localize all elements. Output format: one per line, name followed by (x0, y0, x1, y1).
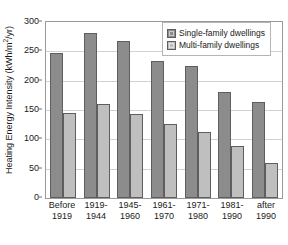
legend-item-multi-family: Multi-family dwellings (167, 39, 265, 51)
y-tick-mark (39, 21, 42, 22)
y-tick-label: 300 (24, 16, 39, 26)
x-axis-labels: Before19191919-19441945-19601961-1970197… (45, 200, 283, 222)
bar (97, 104, 110, 198)
y-axis-title: Heating Energy Intensity (kWh/m2/yr) (0, 0, 18, 200)
bar (164, 124, 177, 198)
legend-item-single-family: Single-family dwellings (167, 27, 265, 39)
bar (50, 53, 63, 198)
x-tick-label: 1919-1944 (79, 200, 113, 222)
y-tick-label: 50 (29, 163, 39, 173)
bar (151, 61, 164, 198)
bar (265, 163, 278, 198)
legend-label-multi-family: Multi-family dwellings (179, 39, 259, 51)
bar (231, 146, 244, 198)
bar-chart: Heating Energy Intensity (kWh/m2/yr) 050… (0, 0, 288, 245)
bar (252, 102, 265, 198)
y-tick-mark (39, 50, 42, 51)
y-tick-mark (39, 109, 42, 110)
x-tick-label: 1961-1970 (147, 200, 181, 222)
bar (218, 92, 231, 198)
y-tick-mark (39, 138, 42, 139)
bar-group (46, 22, 80, 198)
bar (198, 132, 211, 198)
y-tick-mark (39, 79, 42, 80)
bar (63, 113, 76, 198)
y-tick-label: 250 (24, 45, 39, 55)
legend-label-single-family: Single-family dwellings (179, 27, 265, 39)
x-tick-label: Before1919 (45, 200, 79, 222)
legend-swatch-icon-multi-family (167, 41, 176, 50)
bar-group (80, 22, 114, 198)
y-tick-mark (39, 197, 42, 198)
x-tick-label: after1990 (249, 200, 283, 222)
bar (117, 41, 130, 198)
chart-legend: Single-family dwellings Multi-family dwe… (162, 22, 271, 56)
bar (185, 66, 198, 198)
legend-swatch-icon-single-family (167, 29, 176, 38)
y-axis-title-text-pre: Heating Energy Intensity (kWh/m (4, 43, 14, 175)
y-tick-label: 200 (24, 75, 39, 85)
x-tick-label: 1945-1960 (113, 200, 147, 222)
y-tick-label: 150 (24, 104, 39, 114)
bar (130, 114, 143, 198)
bar (84, 33, 97, 198)
y-tick-mark (39, 167, 42, 168)
y-tick-label: 100 (24, 133, 39, 143)
y-axis-ticks: 050100150200250300 (17, 21, 42, 197)
y-axis-title-superscript: 2 (2, 39, 9, 43)
x-tick-label: 1971-1980 (181, 200, 215, 222)
y-axis-title-text-post: /yr) (4, 26, 14, 39)
x-tick-label: 1981-1990 (215, 200, 249, 222)
bar-group (113, 22, 147, 198)
